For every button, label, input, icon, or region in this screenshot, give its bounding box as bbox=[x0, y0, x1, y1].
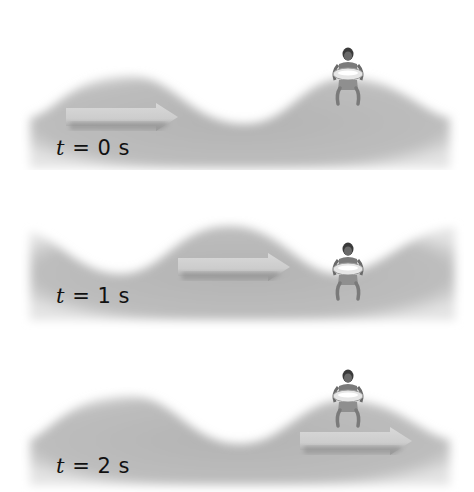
panel-t2: t = 2 s bbox=[0, 330, 474, 492]
time-label: t = 1 s bbox=[56, 284, 130, 308]
equals-sign: = bbox=[65, 136, 97, 160]
panel-t1: t = 1 s bbox=[0, 170, 474, 330]
time-value: 1 s bbox=[97, 284, 129, 308]
equals-sign: = bbox=[65, 454, 97, 478]
time-label: t = 2 s bbox=[56, 454, 130, 478]
time-variable: t bbox=[56, 284, 65, 308]
panel-t0: t = 0 s bbox=[0, 0, 474, 170]
time-label: t = 0 s bbox=[56, 136, 130, 160]
time-value: 0 s bbox=[97, 136, 129, 160]
time-variable: t bbox=[56, 454, 65, 478]
time-value: 2 s bbox=[97, 454, 129, 478]
equals-sign: = bbox=[65, 284, 97, 308]
time-variable: t bbox=[56, 136, 65, 160]
